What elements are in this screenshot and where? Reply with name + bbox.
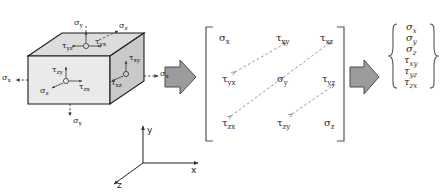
vector-brace-right [430,24,439,88]
stress-cube-graphic: tau_xy --> tau_xz --> tau_yz --> [0,0,441,195]
label-sigma-x-left: σx [2,74,11,82]
label-tau-yx: τyx [95,38,106,46]
vector-item-0: σx [406,22,417,32]
label-sigma-z-front: σz [40,87,49,95]
matrix-cell-2-0: τzx [222,118,235,128]
label-sigma-y-top: σy [74,19,83,27]
block-arrow-right-icon-2 [350,60,379,94]
label-sigma-x-right: σx [160,70,169,78]
matrix-cell-0-2: τxz [320,33,333,43]
matrix-cell-2-2: σz [324,118,335,128]
block-arrow-2 [350,60,379,94]
right-face-origin-dot [123,71,128,76]
matrix-bracket-left [206,27,213,141]
top-face-origin-dot [83,43,88,48]
front-face-origin-dot [63,78,68,83]
figure-canvas: tau_xy --> tau_xz --> tau_yz --> σx σx σ… [0,0,441,195]
matrix-cell-0-0: σx [219,33,230,43]
matrix-bracket-right [337,27,344,141]
vector-item-5: τzx [404,77,417,87]
axis-label-x: x [191,166,196,175]
block-arrow-right-icon [165,60,196,94]
label-sigma-y-bottom: σy [73,117,82,125]
label-tau-zx: τzx [79,83,90,91]
label-tau-zy: τzy [52,66,63,74]
block-arrow-1 [165,60,196,94]
symmetry-arrow-xy [235,43,286,72]
label-tau-yz: τyz [62,42,73,50]
vector-item-1: σy [406,33,417,43]
label-tau-xz: τxz [111,79,122,87]
matrix-cell-1-1: σy [277,74,288,84]
label-sigma-z-top: σz [119,22,128,30]
coordinate-triad-graphic [114,126,198,184]
axis-label-z: z [117,181,122,190]
symmetry-arrow-yz [292,85,334,114]
vector-item-3: τxy [404,55,417,65]
matrix-cell-2-1: τzy [277,118,290,128]
axis-label-y: y [147,126,152,135]
matrix-cell-0-1: τxy [276,33,289,43]
label-tau-xy: τxy [129,54,140,62]
cube-face-front [28,56,110,104]
vector-item-4: τyz [404,66,417,76]
vector-item-2: σz [406,44,417,54]
vector-brace-left [388,24,397,88]
matrix-cell-1-0: τyx [222,74,235,84]
matrix-cell-1-2: τyz [322,74,335,84]
